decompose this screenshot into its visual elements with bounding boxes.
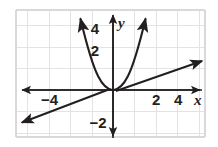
graph-figure: −4 2 4 4 2 −2 x y <box>0 0 218 147</box>
x-tick-label-2: 2 <box>152 91 160 108</box>
y-tick-label-2: 2 <box>91 42 99 59</box>
x-axis-name-label: x <box>193 92 202 108</box>
coordinate-plane-svg: −4 2 4 4 2 −2 x y <box>0 0 218 147</box>
figure-background <box>0 0 218 147</box>
y-tick-label-4: 4 <box>91 20 100 37</box>
x-tick-label-neg4: −4 <box>41 91 59 108</box>
x-tick-label-4: 4 <box>174 91 183 108</box>
y-axis-name-label: y <box>116 15 125 31</box>
y-tick-label-neg2: −2 <box>89 114 106 131</box>
